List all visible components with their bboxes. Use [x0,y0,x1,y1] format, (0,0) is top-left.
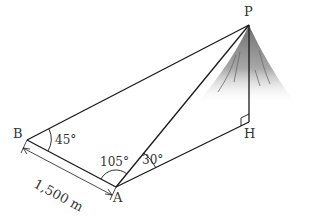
point-label-B: B [13,127,23,140]
point-label-A: A [113,191,122,204]
angle-label-B: 45° [55,134,76,146]
point-label-P: P [244,5,253,18]
angle-label-A-30: 30° [142,154,163,166]
diagram-canvas: P H B A 45° 105° 30° 1,500 m [0,0,311,216]
mountain-icon [196,25,296,104]
triangle-lines [27,25,249,187]
point-label-H: H [244,127,255,140]
angle-arc-B [48,129,51,151]
line-AH [116,122,249,187]
line-AP [116,25,249,187]
angle-label-A-105: 105° [100,156,129,168]
